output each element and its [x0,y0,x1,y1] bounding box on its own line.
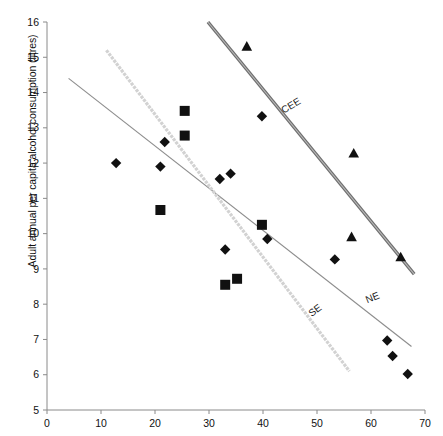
data-point-diamond [160,137,170,147]
x-tick-label: 30 [203,417,215,429]
data-point-diamond [262,234,272,244]
x-tick-label: 40 [257,417,269,429]
data-point-diamond [111,158,121,168]
data-point-diamond [155,161,165,171]
y-tick-label: 6 [33,368,39,380]
y-tick-label: 16 [27,16,39,28]
scatter-plot-svg: CEENESE 56789101112131415160102030405060… [0,0,443,436]
trendline-se [106,50,349,371]
data-point-diamond [330,254,340,264]
x-tick-label: 0 [44,417,50,429]
trendline-cee-core [208,22,414,274]
y-tick-label: 5 [33,404,39,416]
data-point-square [180,106,190,116]
data-point-square [220,280,230,290]
chart-container: Adult annual per capita alcohol consumpt… [0,0,443,436]
data-point-diamond [225,168,235,178]
data-point-triangle [346,232,357,242]
data-point-square [257,220,267,230]
data-point-diamond [387,351,397,361]
trendline-ne [69,78,412,346]
y-tick-label: 15 [27,51,39,63]
data-point-square [180,131,190,141]
data-point-square [232,274,242,284]
data-point-triangle [241,41,252,51]
x-tick-label: 20 [149,417,161,429]
data-point-square [155,205,165,215]
y-tick-label: 14 [27,86,39,98]
y-tick-label: 9 [33,263,39,275]
data-point-diamond [382,335,392,345]
data-point-diamond [220,244,230,254]
y-tick-label: 7 [33,333,39,345]
x-tick-label: 70 [419,417,431,429]
data-point-triangle [348,148,359,158]
y-tick-label: 8 [33,298,39,310]
x-tick-label: 60 [365,417,377,429]
data-point-diamond [403,369,413,379]
y-tick-label: 13 [27,121,39,133]
x-tick-label: 50 [311,417,323,429]
x-tick-label: 10 [95,417,107,429]
data-points-group [111,41,413,379]
data-point-diamond [257,111,267,121]
data-point-diamond [215,174,225,184]
y-tick-label: 10 [27,227,39,239]
series-label-ne: NE [364,290,381,306]
series-label-cee: CEE [279,95,303,115]
trendlines-group [69,22,415,371]
y-tick-label: 11 [28,192,39,204]
y-tick-label: 12 [27,157,39,169]
